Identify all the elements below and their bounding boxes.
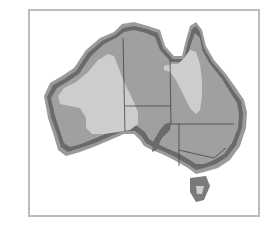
- australia-map: [0, 0, 279, 228]
